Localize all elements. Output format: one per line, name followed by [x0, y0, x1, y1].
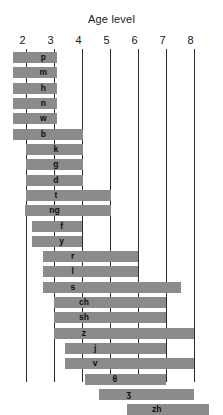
bar-row: z [0, 328, 223, 339]
bar-row: sh [0, 312, 223, 323]
bar-label-n: n [41, 98, 46, 109]
bar-label-t: t [55, 190, 58, 201]
bar-row: p [0, 52, 223, 63]
bar-row: s [0, 282, 223, 293]
bar-h [13, 83, 56, 94]
bar-w [13, 113, 56, 124]
bar-label-ʒ: ʒ [127, 389, 132, 400]
bar-row: t [0, 190, 223, 201]
bar-row: zh [0, 404, 223, 415]
bar-b [13, 129, 83, 140]
bar-ch [54, 297, 166, 308]
bar-s [43, 282, 182, 293]
bar-label-w: w [40, 113, 47, 124]
bar-label-zh: zh [152, 404, 162, 415]
bar-label-d: d [53, 175, 58, 186]
bar-r [43, 251, 138, 262]
bar-label-g: g [53, 159, 58, 170]
bar-label-j: j [94, 343, 96, 354]
bar-row: θ [0, 374, 223, 385]
bar-label-z: z [82, 328, 86, 339]
bar-row: b [0, 129, 223, 140]
bar-row: r [0, 251, 223, 262]
bar-row: ʒ [0, 389, 223, 400]
bar-row: m [0, 67, 223, 78]
bar-label-l: l [72, 266, 74, 277]
bar-ng [25, 205, 112, 216]
bar-zh [127, 404, 210, 415]
bar-label-h: h [41, 83, 46, 94]
bar-y [32, 236, 82, 247]
bar-j [65, 343, 166, 354]
bar-label-k: k [54, 144, 59, 155]
bar-row: ch [0, 297, 223, 308]
bar-sh [54, 312, 166, 323]
bar-m [13, 67, 56, 78]
bar-label-r: r [71, 251, 74, 262]
bar-row: g [0, 159, 223, 170]
bar-ʒ [99, 389, 194, 400]
bar-row: n [0, 98, 223, 109]
bar-row: l [0, 266, 223, 277]
bar-label-p: p [41, 52, 46, 63]
bar-row: h [0, 83, 223, 94]
bar-row: j [0, 343, 223, 354]
bar-label-v: v [93, 358, 98, 369]
bar-row: v [0, 358, 223, 369]
bar-v [65, 358, 194, 369]
bar-θ [85, 374, 166, 385]
bar-label-f: f [60, 221, 63, 232]
bar-row: k [0, 144, 223, 155]
bar-label-θ: θ [112, 374, 117, 385]
bar-label-y: y [59, 236, 64, 247]
bar-row: f [0, 221, 223, 232]
bar-label-ch: ch [79, 297, 89, 308]
bar-label-b: b [41, 129, 46, 140]
bar-row: y [0, 236, 223, 247]
bar-p [13, 52, 56, 63]
bar-label-s: s [70, 282, 75, 293]
bar-f [32, 221, 82, 232]
bar-row: d [0, 175, 223, 186]
bar-label-m: m [40, 67, 48, 78]
bar-t [26, 190, 111, 201]
bar-n [13, 98, 56, 109]
bar-l [43, 266, 138, 277]
bar-row: w [0, 113, 223, 124]
bar-z [54, 328, 194, 339]
bar-label-ng: ng [49, 205, 60, 216]
bar-label-sh: sh [79, 312, 89, 323]
bar-row: ng [0, 205, 223, 216]
